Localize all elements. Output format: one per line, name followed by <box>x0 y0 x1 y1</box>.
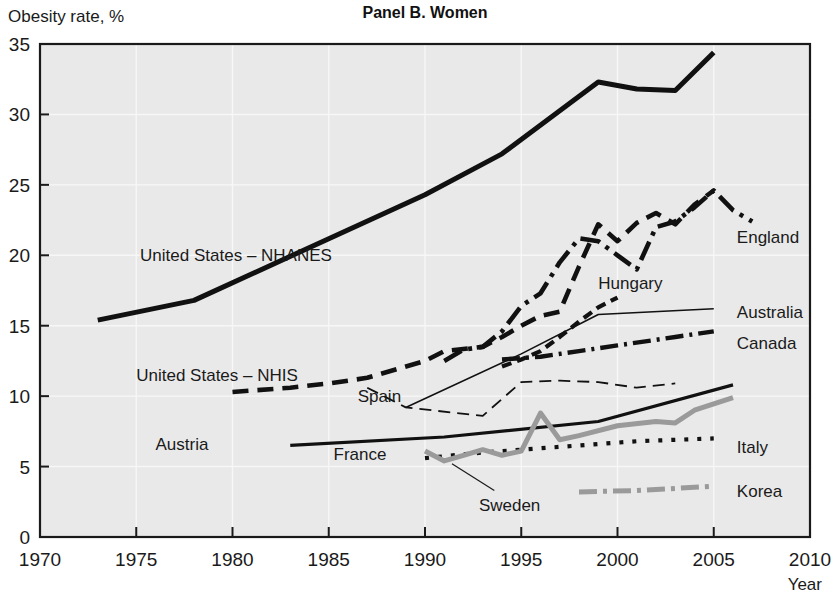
series-label-austria: Austria <box>156 435 209 454</box>
x-tick-label: 1970 <box>19 549 61 570</box>
y-tick-label: 25 <box>9 175 30 196</box>
y-axis-tick-labels: 05101520253035 <box>9 34 30 548</box>
chart-figure: United States – NHANESUnited States – NH… <box>0 0 831 597</box>
series-label-france: France <box>334 445 387 464</box>
y-tick-label: 35 <box>9 34 30 55</box>
x-tick-label: 1985 <box>308 549 350 570</box>
series-label-sweden: Sweden <box>479 496 540 515</box>
y-axis-title: Obesity rate, % <box>8 7 124 26</box>
series-label-hungary: Hungary <box>598 274 663 293</box>
x-axis-tick-labels: 197019751980198519901995200020052010 <box>19 549 831 570</box>
page-title: Panel B. Women <box>362 4 487 21</box>
series-label-united-states-nhanes: United States – NHANES <box>140 246 332 265</box>
x-tick-label: 2005 <box>693 549 735 570</box>
series-label-canada: Canada <box>737 334 797 353</box>
x-tick-label: 1995 <box>500 549 542 570</box>
series-label-united-states-nhis: United States – NHIS <box>136 366 298 385</box>
x-tick-label: 1980 <box>211 549 253 570</box>
series-label-italy: Italy <box>737 438 769 457</box>
series-label-korea: Korea <box>737 482 783 501</box>
y-tick-label: 15 <box>9 316 30 337</box>
series-label-england: England <box>737 228 799 247</box>
x-axis-title: Year <box>788 575 823 594</box>
obesity-rate-line-chart: United States – NHANESUnited States – NH… <box>0 0 831 597</box>
series-label-australia: Australia <box>737 303 804 322</box>
x-tick-label: 1990 <box>404 549 446 570</box>
y-tick-label: 20 <box>9 245 30 266</box>
x-tick-label: 2000 <box>596 549 638 570</box>
y-tick-label: 5 <box>19 457 30 478</box>
y-tick-label: 10 <box>9 386 30 407</box>
series-label-spain: Spain <box>358 387 401 406</box>
x-tick-label: 1975 <box>115 549 157 570</box>
x-tick-label: 2010 <box>789 549 831 570</box>
y-tick-label: 0 <box>19 527 30 548</box>
y-tick-label: 30 <box>9 104 30 125</box>
